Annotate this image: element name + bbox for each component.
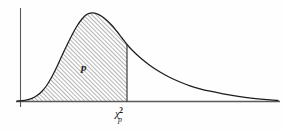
- area-probability-label: p: [81, 62, 87, 73]
- chi-square-distribution-figure: p χ2p: [0, 0, 283, 131]
- shaded-probability-region: [17, 13, 127, 102]
- chi-exponent: 2: [119, 106, 123, 115]
- chi-square-plot: [0, 0, 283, 131]
- critical-value-label: χ2p: [115, 106, 128, 122]
- chi-subscript: p: [118, 115, 122, 124]
